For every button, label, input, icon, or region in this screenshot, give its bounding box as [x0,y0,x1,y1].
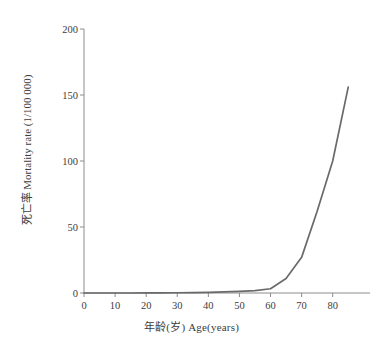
x-axis-tick-label: 20 [141,300,152,311]
x-axis-title: 年龄(岁) Age(years) [0,318,383,334]
y-axis-tick-label: 0 [40,288,78,299]
y-axis-tick-label: 100 [40,156,78,167]
x-axis-tick-label: 40 [203,300,214,311]
chart-background [0,0,383,355]
line-chart-plot [0,0,383,355]
x-axis-tick-label: 10 [110,300,121,311]
x-axis-tick-label: 70 [296,300,307,311]
chart-figure: 050100150200 01020304050607080 死亡率 Morta… [0,0,383,355]
x-axis-tick-label: 80 [327,300,338,311]
y-axis-tick-label: 50 [40,222,78,233]
y-axis-tick-label: 150 [40,90,78,101]
x-axis-tick-label: 50 [234,300,245,311]
x-axis-tick-label: 30 [172,300,183,311]
y-axis-tick-label: 200 [40,24,78,35]
x-axis-tick-label: 60 [265,300,276,311]
y-axis-title: 死亡率 Mortality rate (1/100 000) [18,75,34,226]
x-axis-tick-label: 0 [81,300,86,311]
y-axis-title-wrapper: 死亡率 Mortality rate (1/100 000) [14,0,38,300]
